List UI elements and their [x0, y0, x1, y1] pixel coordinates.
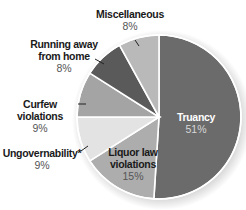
label-name: Ungovernability* — [2, 147, 82, 159]
label-percent: 15% — [108, 170, 158, 182]
label-name-line1: Liquor law — [108, 146, 158, 158]
label-name: Miscellaneous — [95, 8, 165, 20]
label-percent: 9% — [2, 159, 82, 171]
label-running-away: Running away from home 8% — [28, 38, 100, 74]
label-name-line1: Running away — [28, 38, 100, 50]
label-name-line2: from home — [28, 50, 100, 62]
label-truancy: Truancy 51% — [172, 111, 220, 135]
label-percent: 8% — [95, 20, 165, 32]
label-percent: 8% — [28, 62, 100, 74]
label-curfew: Curfew violations 9% — [0, 98, 80, 134]
label-name: Truancy — [172, 111, 220, 123]
label-name-line2: violations — [108, 158, 158, 170]
label-liquor-law: Liquor law violations 15% — [108, 146, 158, 182]
label-miscellaneous: Miscellaneous 8% — [95, 8, 165, 32]
label-percent: 51% — [172, 123, 220, 135]
label-percent: 9% — [0, 122, 80, 134]
label-ungovernability: Ungovernability* 9% — [2, 147, 82, 171]
label-name: Curfew violations — [0, 98, 80, 122]
